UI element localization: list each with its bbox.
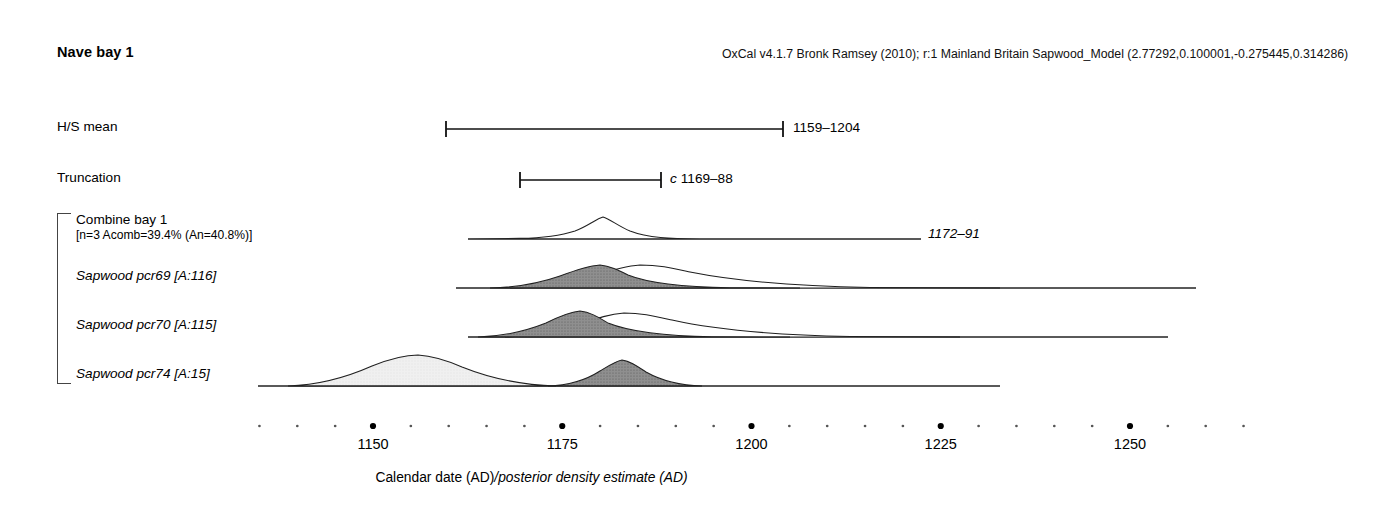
axis-tick-major [1127,423,1133,429]
axis-title-roman: Calendar date (AD) [375,470,494,485]
axis-tick-minor [410,425,413,428]
axis-tick-minor [599,425,602,428]
axis-tick-major [559,423,565,429]
axis-tick-minor [447,425,450,428]
axis-tick-label: 1225 [925,436,957,452]
axis-tick-minor [1015,425,1018,428]
range-bar-truncation [520,172,661,188]
axis-tick-label: 1250 [1114,436,1146,452]
axis-ticks [258,423,1245,429]
density-sapwood-pcr70 [468,311,1168,337]
density-sapwood-pcr69 [456,265,1196,288]
axis-tick-minor [637,425,640,428]
axis-tick-minor [334,425,337,428]
axis-tick-major [370,423,376,429]
axis-tick-minor [1053,425,1056,428]
axis-tick-label: 1175 [547,436,578,452]
axis-tick-label: 1150 [357,436,388,452]
axis-tick-label: 1200 [735,436,767,452]
axis-tick-minor [485,425,488,428]
axis-tick-minor [1242,425,1245,428]
axis-tick-minor [296,425,299,428]
axis-tick-minor [826,425,829,428]
axis-tick-minor [977,425,980,428]
axis-tick-major [748,423,754,429]
axis-tick-major [938,423,944,429]
density-sapwood-pcr74 [258,355,1000,386]
axis-tick-minor [1091,425,1094,428]
axis-title: Calendar date (AD)/posterior density est… [0,470,1395,485]
axis-tick-minor [788,425,791,428]
axis-tick-minor [674,425,677,428]
axis-tick-labels: 11501175120012251250 [357,436,1146,452]
distribution-graphics: 11501175120012251250 [0,0,1395,505]
density-combine-bay-1 [468,217,921,239]
axis-title-italic: /posterior density estimate (AD) [494,470,687,485]
axis-tick-minor [1167,425,1170,428]
axis-tick-minor [902,425,905,428]
range-bar-hs-mean [446,121,783,137]
axis-tick-minor [712,425,715,428]
oxcal-plot: Nave bay 1 OxCal v4.1.7 Bronk Ramsey (20… [0,0,1395,505]
axis-tick-minor [258,425,261,428]
axis-tick-minor [523,425,526,428]
axis-tick-minor [864,425,867,428]
axis-tick-minor [1204,425,1207,428]
